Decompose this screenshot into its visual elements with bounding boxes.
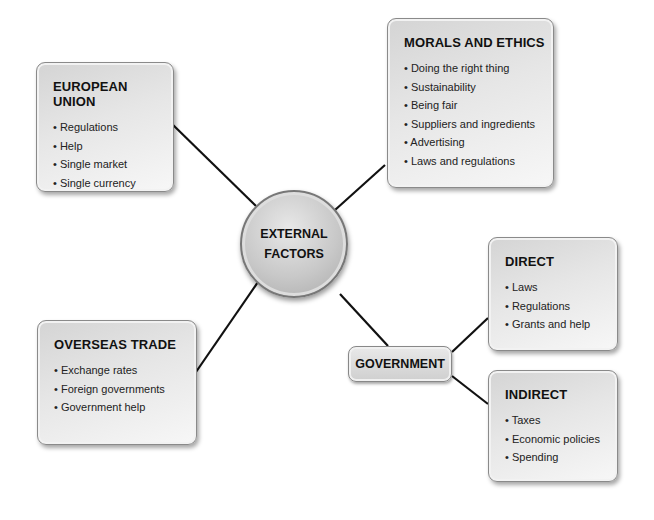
list-item: Advertising — [404, 133, 553, 152]
overseas-trade-box: OVERSEAS TRADE Exchange rates Foreign go… — [37, 320, 197, 445]
morals-ethics-box: MORALS AND ETHICS Doing the right thing … — [387, 18, 554, 188]
direct-box: DIRECT Laws Regulations Grants and help — [488, 237, 618, 351]
list-item: Suppliers and ingredients — [404, 115, 553, 134]
list-item: Taxes — [505, 411, 617, 430]
center-label-line1: EXTERNAL — [260, 227, 327, 241]
government-node: GOVERNMENT — [348, 346, 452, 382]
list-item: Spending — [505, 448, 617, 467]
external-factors-node: EXTERNALFACTORS — [240, 190, 348, 298]
list-item: Being fair — [404, 96, 553, 115]
list-item: Grants and help — [505, 315, 617, 334]
list-item: Single market — [53, 155, 173, 174]
list-item: Economic policies — [505, 430, 617, 449]
center-label-line2: FACTORS — [264, 247, 324, 261]
list-item: Exchange rates — [54, 361, 196, 380]
european-union-box: EUROPEAN UNION Regulations Help Single m… — [36, 62, 174, 192]
indirect-box: INDIRECT Taxes Economic policies Spendin… — [488, 370, 618, 482]
list-item: Foreign governments — [54, 380, 196, 399]
list-item: Regulations — [53, 118, 173, 137]
list-item: Doing the right thing — [404, 59, 553, 78]
morals-ethics-title: MORALS AND ETHICS — [404, 35, 553, 50]
list-item: Single currency — [53, 174, 173, 193]
list-item: Sustainability — [404, 78, 553, 97]
european-union-title: EUROPEAN UNION — [53, 79, 173, 109]
list-item: Help — [53, 137, 173, 156]
list-item: Government help — [54, 398, 196, 417]
overseas-trade-title: OVERSEAS TRADE — [54, 337, 196, 352]
list-item: Laws — [505, 278, 617, 297]
list-item: Regulations — [505, 297, 617, 316]
direct-title: DIRECT — [505, 254, 617, 269]
list-item: Laws and regulations — [404, 152, 553, 171]
indirect-title: INDIRECT — [505, 387, 617, 402]
